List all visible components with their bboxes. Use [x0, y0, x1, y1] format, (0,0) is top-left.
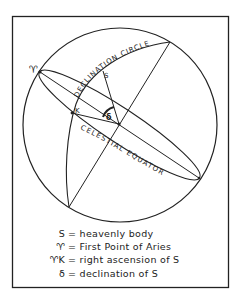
- legend-text: = First Point of Aries: [68, 241, 171, 252]
- legend-text: = right ascension of S: [68, 254, 179, 265]
- legend-symbol: ♈K: [50, 254, 65, 265]
- legend-text: = declination of S: [68, 268, 158, 279]
- legend-symbol: ♈: [56, 241, 65, 252]
- aries-label: ♈: [29, 64, 38, 75]
- legend-symbol: δ: [59, 268, 65, 279]
- opposite-point: [198, 177, 201, 180]
- center-point: [117, 122, 120, 125]
- k-label: K: [75, 107, 80, 115]
- legend-text: = heavenly body: [68, 228, 153, 239]
- declination-circle-label: DECLINATION CIRCLE: [73, 39, 151, 99]
- k-point: [71, 112, 74, 115]
- legend-symbol: S: [59, 228, 65, 239]
- delta-label: δ: [106, 113, 112, 122]
- aries-point: [38, 70, 41, 73]
- star-label: S: [104, 72, 109, 80]
